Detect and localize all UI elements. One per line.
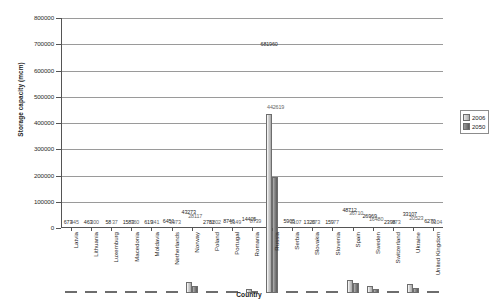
category-group: 1320873Slovakia bbox=[302, 18, 322, 293]
x-axis-tick bbox=[413, 228, 414, 231]
category-group: 2398973Switzerland bbox=[383, 18, 403, 293]
x-axis-category-label: Slovenia bbox=[335, 232, 341, 255]
bar-pair bbox=[65, 83, 77, 293]
category-group: 673445Latvia bbox=[61, 18, 81, 293]
category-group: 2696916480Sweden bbox=[363, 18, 383, 293]
y-axis-tick-label: 0 bbox=[2, 225, 54, 231]
x-axis-tick bbox=[332, 228, 333, 231]
x-axis-tick bbox=[393, 228, 394, 231]
x-axis-category-label: Ukraine bbox=[415, 232, 421, 253]
bar-pair bbox=[145, 83, 157, 293]
y-axis-tick-label: 200000 bbox=[2, 173, 54, 179]
value-label-2050: 445 bbox=[70, 220, 79, 225]
x-axis-title: Country bbox=[0, 291, 498, 298]
x-axis-category-label: Portugal bbox=[234, 232, 240, 255]
x-axis-tick bbox=[312, 228, 313, 231]
category-group: 59053107Serbia bbox=[282, 18, 302, 293]
x-axis-category-label: Poland bbox=[214, 232, 220, 251]
category-group: 4871236710Spain bbox=[342, 18, 362, 293]
value-label-2050: 973 bbox=[392, 220, 401, 225]
category-group: 1583760Macedonia bbox=[121, 18, 141, 293]
bar-pair bbox=[407, 83, 419, 293]
category-group: 3310720523Ukraine bbox=[403, 18, 423, 293]
x-axis-tick bbox=[373, 228, 374, 231]
value-label-2050: 16480 bbox=[369, 217, 383, 222]
x-axis-category-label: United Kingdom bbox=[435, 232, 441, 275]
bar-pair bbox=[347, 83, 359, 293]
value-label-2050: 37 bbox=[112, 220, 118, 225]
y-axis-tick-label: 700000 bbox=[2, 41, 54, 47]
x-axis-tick bbox=[192, 228, 193, 231]
x-axis-tick bbox=[71, 228, 72, 231]
legend-label: 2006 bbox=[472, 115, 485, 121]
legend-swatch-icon bbox=[463, 114, 470, 121]
category-group: 62703104United Kingdom bbox=[423, 18, 443, 293]
x-axis-tick bbox=[272, 228, 273, 231]
value-label-2050: 3973 bbox=[169, 220, 180, 225]
y-axis-tick-label: 500000 bbox=[2, 94, 54, 100]
x-axis-category-label: Slovakia bbox=[314, 232, 320, 255]
x-axis-tick bbox=[292, 228, 293, 231]
bar-pair bbox=[367, 83, 379, 293]
value-label-2050: 300 bbox=[90, 220, 99, 225]
y-axis-tick-label: 600000 bbox=[2, 68, 54, 74]
category-group: 15977Slovenia bbox=[322, 18, 342, 293]
x-axis-category-label: Norway bbox=[194, 232, 200, 253]
bar-pair bbox=[246, 83, 258, 293]
bar-pair bbox=[186, 83, 198, 293]
x-axis-tick bbox=[91, 228, 92, 231]
x-axis-category-label: Luxemburg bbox=[113, 232, 119, 263]
x-axis-tick bbox=[111, 228, 112, 231]
y-axis-tick-label: 800000 bbox=[2, 15, 54, 21]
x-axis-tick bbox=[151, 228, 152, 231]
x-axis-tick bbox=[172, 228, 173, 231]
bar-pair bbox=[306, 83, 318, 293]
legend-entry[interactable]: 2050 bbox=[463, 123, 485, 130]
legend-entry[interactable]: 2006 bbox=[463, 114, 485, 121]
value-label-2050: 3104 bbox=[431, 220, 442, 225]
category-group: 144058739Romania bbox=[242, 18, 262, 293]
x-axis-tick bbox=[252, 228, 253, 231]
chart-legend: 20062050 bbox=[460, 110, 489, 134]
value-label-2050: 341 bbox=[151, 220, 160, 225]
category-group: 681960442619Russia bbox=[262, 18, 282, 293]
x-axis-category-label: Netherlands bbox=[174, 232, 180, 265]
y-axis-tick-label: 300000 bbox=[2, 146, 54, 152]
bar-pair bbox=[286, 83, 298, 293]
x-axis-category-label: Switzerland bbox=[395, 232, 401, 264]
value-label-2050: 873 bbox=[312, 220, 321, 225]
legend-swatch-icon bbox=[463, 123, 470, 130]
x-axis-category-label: Spain bbox=[355, 232, 361, 248]
x-axis-category-label: Latvia bbox=[73, 232, 79, 248]
value-label-2050: 3107 bbox=[290, 220, 301, 225]
value-label-2006: 681960 bbox=[261, 42, 278, 47]
x-axis-tick bbox=[212, 228, 213, 231]
x-axis-category-label: Moldavia bbox=[154, 232, 160, 256]
value-label-2050: 1802 bbox=[210, 220, 221, 225]
bar-pair bbox=[326, 83, 338, 293]
y-axis-tick-label: 400000 bbox=[2, 120, 54, 126]
value-label-2050: 5149 bbox=[230, 220, 241, 225]
bar-chart: Storage capacity (mcm) 80000070000060000… bbox=[0, 0, 498, 308]
x-axis-tick bbox=[433, 228, 434, 231]
bar-pair bbox=[85, 83, 97, 293]
value-label-2050: 760 bbox=[131, 220, 140, 225]
category-group: 4327328117Norway bbox=[182, 18, 202, 293]
bar-pair bbox=[226, 83, 238, 293]
x-axis-tick bbox=[353, 228, 354, 231]
value-label-2050: 28117 bbox=[188, 214, 202, 219]
x-axis-category-label: Romania bbox=[254, 232, 260, 256]
value-label-2050: 77 bbox=[333, 220, 339, 225]
value-label-2050: 8739 bbox=[250, 219, 261, 224]
bar-pair bbox=[206, 83, 218, 293]
x-axis-tick bbox=[232, 228, 233, 231]
category-group: 5837Luxemburg bbox=[101, 18, 121, 293]
x-axis-category-label: Macedonia bbox=[134, 232, 140, 262]
category-group: 619341Moldavia bbox=[141, 18, 161, 293]
x-axis-tick bbox=[131, 228, 132, 231]
category-group: 87465149Portugal bbox=[222, 18, 242, 293]
x-axis-category-label: Sweden bbox=[375, 232, 381, 254]
x-axis-category-label: Russia bbox=[274, 232, 280, 251]
x-axis-category-label: Serbia bbox=[294, 232, 300, 250]
category-group: 64513973Netherlands bbox=[162, 18, 182, 293]
